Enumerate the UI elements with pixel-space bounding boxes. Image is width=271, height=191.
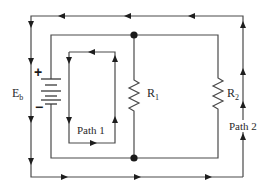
negative-sign: − xyxy=(35,99,43,115)
arrow-right-icon xyxy=(134,174,141,180)
r1-label: R1 xyxy=(147,86,159,102)
arrow-left-icon xyxy=(188,13,195,19)
arrow-down-icon xyxy=(66,117,72,124)
arrow-up-icon xyxy=(240,101,246,108)
arrow-up-icon xyxy=(112,116,118,123)
arrow-down-icon xyxy=(28,116,34,123)
arrow-left-icon xyxy=(124,13,131,19)
path-1-loop: Path 1 xyxy=(66,49,118,146)
resistor-icon xyxy=(213,72,223,116)
arrow-up-icon xyxy=(240,21,246,28)
arrow-right-icon xyxy=(90,140,97,146)
main-circuit xyxy=(51,35,218,158)
positive-sign: + xyxy=(34,64,42,80)
arrow-left-icon xyxy=(58,13,65,19)
arrow-down-icon xyxy=(28,158,34,165)
arrow-up-icon xyxy=(240,133,246,140)
source-label: Eb xyxy=(12,86,23,102)
resistor-r2: R2 xyxy=(213,72,239,116)
resistor-r1: R1 xyxy=(129,76,159,116)
arrow-right-icon xyxy=(61,174,68,180)
arrow-down-icon xyxy=(28,21,34,28)
path-1-label: Path 1 xyxy=(77,124,105,136)
arrow-up-icon xyxy=(112,55,118,62)
junction-bottom xyxy=(130,154,137,161)
arrow-up-icon xyxy=(240,68,246,75)
arrow-right-icon xyxy=(205,174,212,180)
battery-eb: + − Eb xyxy=(12,64,61,115)
junction-top xyxy=(130,31,137,38)
path-2-label: Path 2 xyxy=(229,120,257,132)
circuit-diagram: + − Eb R1 R2 Path 1 Path 2 xyxy=(0,0,271,191)
r2-label: R2 xyxy=(227,86,239,102)
arrow-left-icon xyxy=(88,49,95,55)
arrow-down-icon xyxy=(66,57,72,64)
resistor-icon xyxy=(129,76,139,116)
